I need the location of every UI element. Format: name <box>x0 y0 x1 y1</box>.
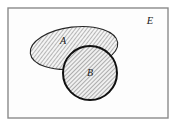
universe-label: E <box>146 15 154 26</box>
venn-diagram-canvas: A B E <box>0 0 175 126</box>
venn-diagram-figure: A B E <box>0 0 175 126</box>
set-a-label: A <box>59 35 67 46</box>
set-b-label: B <box>87 67 93 78</box>
